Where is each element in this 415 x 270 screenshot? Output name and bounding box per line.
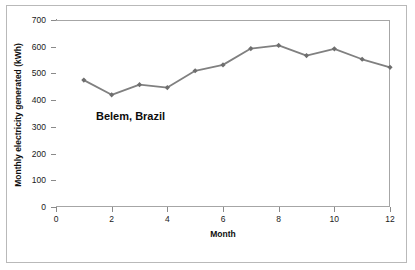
y-tick-row-500: 500	[0, 69, 56, 77]
x-tick-label-8: 8	[264, 214, 294, 224]
y-tick-label-200: 200	[16, 150, 46, 158]
data-point-month-9	[304, 53, 309, 58]
y-tick-row-600: 600	[0, 43, 56, 51]
series-annotation-label: Belem, Brazil	[96, 110, 165, 122]
x-tick-label-2: 2	[97, 214, 127, 224]
x-tick-6	[223, 207, 224, 212]
y-tick-row-300: 300	[0, 123, 56, 131]
y-tick-label-0: 0	[16, 203, 46, 211]
x-tick-label-4: 4	[152, 214, 182, 224]
x-tick-12	[390, 207, 391, 212]
y-tick-label-300: 300	[16, 123, 46, 131]
x-tick-8	[279, 207, 280, 212]
x-tick-4	[167, 207, 168, 212]
y-tick-label-700: 700	[16, 16, 46, 24]
series-line	[84, 45, 390, 94]
x-tick-0	[56, 207, 57, 212]
x-tick-label-12: 12	[375, 214, 405, 224]
x-tick-10	[334, 207, 335, 212]
y-tick-row-0: 0	[0, 203, 56, 211]
x-tick-2	[112, 207, 113, 212]
x-axis-title: Month	[56, 229, 390, 239]
x-tick-label-6: 6	[208, 214, 238, 224]
y-tick-label-600: 600	[16, 43, 46, 51]
x-tick-label-10: 10	[319, 214, 349, 224]
y-tick-label-500: 500	[16, 69, 46, 77]
x-tick-label-0: 0	[41, 214, 71, 224]
y-tick-row-400: 400	[0, 96, 56, 104]
y-tick-row-700: 700	[0, 16, 56, 24]
chart-figure: Monthly electricity generated (kWh) 0100…	[0, 0, 415, 270]
data-point-month-10	[332, 46, 337, 51]
y-tick-label-400: 400	[16, 96, 46, 104]
data-point-month-3	[137, 82, 142, 87]
y-tick-row-200: 200	[0, 150, 56, 158]
y-tick-row-100: 100	[0, 176, 56, 184]
data-point-month-11	[360, 57, 365, 62]
y-tick-label-100: 100	[16, 176, 46, 184]
data-point-month-8	[276, 43, 281, 48]
